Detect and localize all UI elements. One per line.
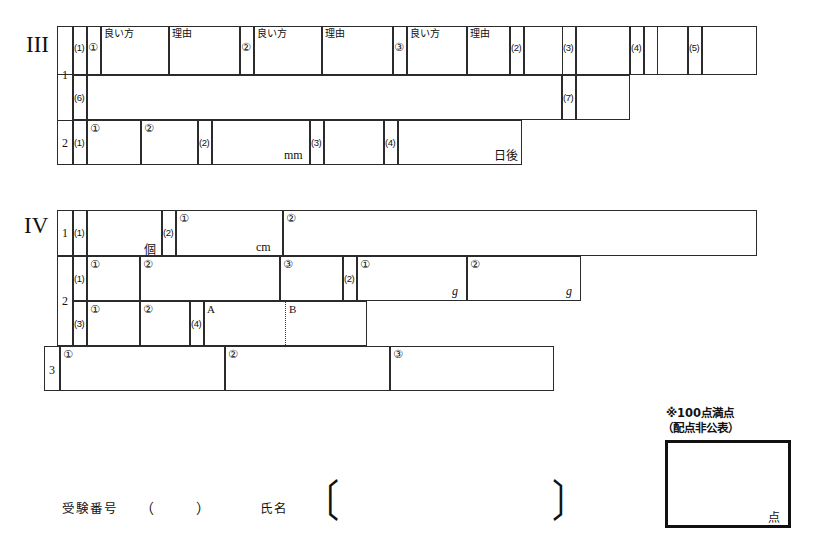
section4-r2-4-ab-divider xyxy=(285,302,286,345)
section3-row1-number: 1 xyxy=(57,68,73,83)
section4-r2-2-mark-1: ① xyxy=(360,259,370,270)
section4-row3-number: 3 xyxy=(44,363,60,378)
section4-r3-mark3-box[interactable] xyxy=(390,346,554,391)
section4-r2-label-2: (2) xyxy=(344,273,354,284)
section3-r1-mark-3: ③ xyxy=(394,42,404,53)
section4-r2-2-unit-g-2: g xyxy=(566,284,572,299)
section4-r3-mark-1: ① xyxy=(63,349,73,360)
section4-r1-label-1: (1) xyxy=(74,227,84,238)
section3-r2-label-4: (4) xyxy=(385,137,395,148)
exam-number-paren-close: ） xyxy=(196,497,211,517)
section3-r1-3-yoihou-header: 良い方 xyxy=(410,28,440,39)
section3-r1-2-yoihou-header: 良い方 xyxy=(257,28,287,39)
score-note-line2: （配点非公表） xyxy=(662,421,739,436)
name-bracket-close: 〕 xyxy=(552,481,587,525)
section4-r2-4-label-b: B xyxy=(289,303,296,315)
section3-r2-label-1: (1) xyxy=(74,137,84,148)
section4-r2-2-mark1-box[interactable] xyxy=(357,256,467,301)
section4-r2-1-mark-3: ③ xyxy=(283,259,293,270)
section3-r2-mark-2: ② xyxy=(144,123,154,134)
section4-r2-3-mark-2: ② xyxy=(143,304,153,315)
section4-r1-2-mark-2: ② xyxy=(286,213,296,224)
section4-r1-label-2: (2) xyxy=(163,227,173,238)
section4-r2-1-mark-1: ① xyxy=(90,259,100,270)
section3-r2-3-answer-box[interactable] xyxy=(324,120,384,165)
section3-r1-mark-2: ② xyxy=(241,42,251,53)
section4-r1-2-unit-cm: cm xyxy=(256,240,271,255)
score-note-line1: ※100点満点 xyxy=(666,406,734,421)
section3-r1-label-4: (4) xyxy=(631,42,641,53)
exam-number-label: 受験番号 xyxy=(62,498,118,517)
section3-r2-mark-1: ① xyxy=(90,123,100,134)
section3-r1-label-3: (3) xyxy=(563,42,573,53)
exam-number-paren-open: （ xyxy=(140,497,155,517)
section3-r1-5-answer-box[interactable] xyxy=(702,26,757,75)
section4-r2-label-1: (1) xyxy=(74,273,84,284)
section3-6-answer-box[interactable] xyxy=(87,75,562,120)
section4-r3-mark-3: ③ xyxy=(393,349,403,360)
section3-r2-label-3: (3) xyxy=(311,137,321,148)
section4-r2-2-mark2-box[interactable] xyxy=(467,256,581,301)
name-label: 氏名 xyxy=(260,498,288,517)
section4-r3-mark-2: ② xyxy=(228,349,238,360)
section3-r1-label-2: (2) xyxy=(511,42,521,53)
section4-r2-1-mark-2: ② xyxy=(143,259,153,270)
section3-r1-3-answer-box[interactable] xyxy=(576,26,630,75)
section4-row2-number: 2 xyxy=(57,294,73,309)
section4-r2-2-mark-2: ② xyxy=(470,259,480,270)
section4-r3-mark1-box[interactable] xyxy=(60,346,225,391)
section4-r2-1-mark2-box[interactable] xyxy=(140,256,280,301)
section4-r2-4-label-a: A xyxy=(207,303,215,315)
section3-label-6: (6) xyxy=(74,92,84,103)
section4-row1-number: 1 xyxy=(57,226,73,241)
score-unit-label: 点 xyxy=(768,508,780,525)
section4-r3-mark2-box[interactable] xyxy=(225,346,390,391)
section3-r1-3-riyuu-header: 理由 xyxy=(470,28,490,39)
section3-r2-4-unit-nichigo: 日後 xyxy=(494,146,518,163)
section3-r1-label-5: (5) xyxy=(689,42,699,53)
section3-r1-2-riyuu-header: 理由 xyxy=(325,28,345,39)
section3-label-7: (7) xyxy=(563,92,573,103)
section3-r1-1-yoihou-header: 良い方 xyxy=(104,28,134,39)
section-label-3: III xyxy=(26,32,49,58)
name-bracket-open: 〔 xyxy=(304,481,339,525)
section3-r2-label-2: (2) xyxy=(199,137,209,148)
section3-7-answer-box[interactable] xyxy=(576,75,630,120)
section3-r1-1-riyuu-header: 理由 xyxy=(172,28,192,39)
section4-r2-3-mark-1: ① xyxy=(90,304,100,315)
section-label-4: IV xyxy=(24,213,48,239)
section4-r1-1-unit-ko: 個 xyxy=(144,240,156,257)
section4-r1-2-mark2-box[interactable] xyxy=(283,210,757,256)
section4-r2-2-unit-g-1: g xyxy=(452,284,458,299)
section4-r2-label-3: (3) xyxy=(74,318,84,329)
section3-r1-label-1: (1) xyxy=(74,42,84,53)
section3-r1-mark-1: ① xyxy=(88,42,98,53)
section3-row2-number: 2 xyxy=(57,136,73,151)
section3-r2-2-unit-mm: mm xyxy=(284,148,303,163)
section4-r2-label-4: (4) xyxy=(191,318,201,329)
section4-r1-2-mark-1: ① xyxy=(179,213,189,224)
answer-sheet: III 1 (1) ① 良い方 理由 ② 良い方 理由 ③ 良い方 理由 (2)… xyxy=(0,0,831,548)
section3-r1-4-answer-box[interactable] xyxy=(644,26,688,75)
